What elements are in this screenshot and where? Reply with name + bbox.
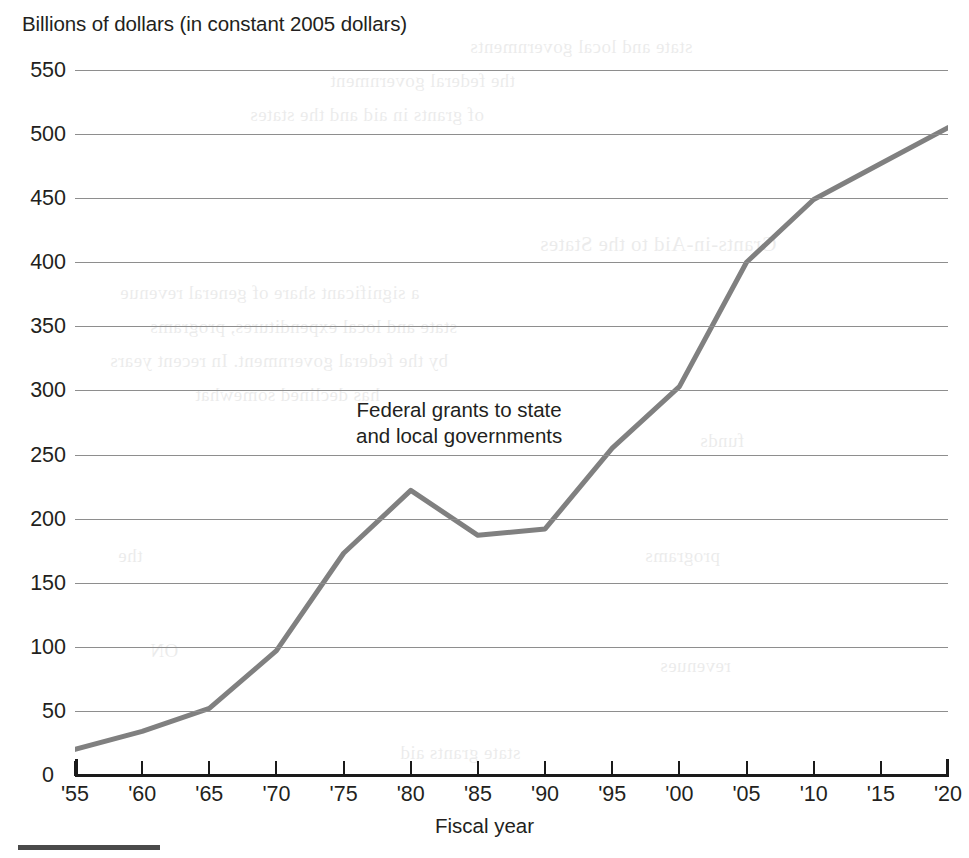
gridline xyxy=(75,262,948,263)
x-axis-tick xyxy=(275,761,277,776)
x-axis-tick xyxy=(477,761,479,776)
gridline xyxy=(75,455,948,456)
x-axis-tick xyxy=(544,761,546,776)
x-axis-tick xyxy=(746,761,748,776)
x-axis-tick-label: '65 xyxy=(195,782,223,807)
gridline xyxy=(75,134,948,135)
x-axis-tick xyxy=(813,761,815,776)
x-axis-tick xyxy=(141,761,143,776)
x-axis-title: Fiscal year xyxy=(0,814,969,838)
x-axis-tick-label: '70 xyxy=(262,782,290,807)
page-footer-rule xyxy=(18,845,160,850)
y-axis-tick-label: 550 xyxy=(4,58,66,83)
gridline xyxy=(75,647,948,648)
y-axis-tick-label: 500 xyxy=(4,122,66,147)
x-axis-tick-label: '10 xyxy=(800,782,828,807)
y-axis-tick-label: 100 xyxy=(4,634,66,659)
y-axis-tick-label: 250 xyxy=(4,442,66,467)
line-chart: Billions of dollars (in constant 2005 do… xyxy=(0,0,969,858)
x-axis-tick xyxy=(410,761,412,776)
x-axis-tick-label: '90 xyxy=(531,782,559,807)
y-axis-tick-label: 200 xyxy=(4,506,66,531)
gridline xyxy=(75,70,948,71)
y-axis-tick-label: 300 xyxy=(4,378,66,403)
x-axis-tick xyxy=(208,761,210,776)
x-axis-tick xyxy=(343,761,345,776)
y-axis-tick-label: 350 xyxy=(4,314,66,339)
gridline xyxy=(75,711,948,712)
gridline xyxy=(75,519,948,520)
chart-title: Billions of dollars (in constant 2005 do… xyxy=(22,12,407,36)
gridline xyxy=(75,583,948,584)
y-axis-tick-label: 400 xyxy=(4,250,66,275)
x-axis-tick-label: '60 xyxy=(128,782,156,807)
x-axis-tick-label: '55 xyxy=(61,782,89,807)
x-axis-tick xyxy=(611,761,613,776)
y-axis-tick-label: 50 xyxy=(4,698,66,723)
y-axis-tick-label: 150 xyxy=(4,570,66,595)
y-axis-zero-label: 0 xyxy=(42,763,54,788)
x-axis-tick-label: '75 xyxy=(330,782,358,807)
x-axis-tick-label: '80 xyxy=(397,782,425,807)
x-axis-tick xyxy=(678,761,680,776)
x-axis-tick xyxy=(880,761,882,776)
x-axis-tick xyxy=(74,761,76,776)
gridline xyxy=(75,390,948,391)
y-axis-tick-label: 450 xyxy=(4,186,66,211)
y-axis-tick-labels: 55050045040035030025020015010050 xyxy=(0,70,66,775)
x-axis-tick-label: '20 xyxy=(934,782,962,807)
x-axis-tick-label: '05 xyxy=(733,782,761,807)
x-axis-tick-label: '95 xyxy=(598,782,626,807)
gridline xyxy=(75,326,948,327)
x-axis-tick-label: '15 xyxy=(867,782,895,807)
x-axis-tick-label: '00 xyxy=(665,782,693,807)
series-annotation-label: Federal grants to state and local govern… xyxy=(356,397,562,449)
x-axis-line xyxy=(75,774,949,777)
x-axis-tick-label: '85 xyxy=(464,782,492,807)
gridline xyxy=(75,198,948,199)
x-axis-tick xyxy=(947,761,949,776)
